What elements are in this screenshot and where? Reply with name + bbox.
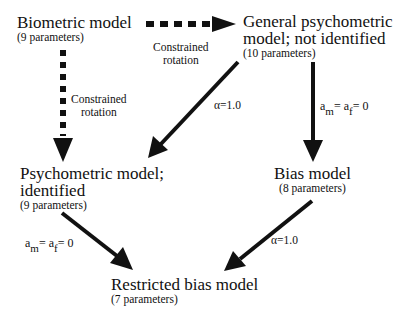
node-params: (10 parameters) [243,47,393,60]
node-general-psychometric-model: General psychometric model; not identifi… [243,13,393,60]
label-line1: Constrained [71,93,127,106]
edge-label-psych-to-restricted: am= af= 0 [25,236,73,254]
node-biometric-model: Biometric model (9 parameters) [17,14,132,44]
node-title-line1: General psychometric [243,13,393,30]
node-params: (9 parameters) [20,199,164,212]
eq-part2: = 0 [58,236,74,250]
arrow-bias-to-restricted [224,201,312,271]
edge-label-bias-to-restricted: α=1.0 [271,234,298,247]
node-title-line2: identified [20,182,164,199]
node-params: (9 parameters) [17,31,132,44]
node-params: (7 parameters) [111,293,258,306]
node-title-line2: model; not identified [243,30,393,47]
edge-label-bio-to-general: Constrained rotation [153,41,209,67]
label-line2: rotation [153,54,209,67]
arrow-bio-to-general [146,16,236,32]
label-line1: Constrained [153,41,209,54]
edge-label-general-to-bias: am= af= 0 [320,99,368,117]
node-bias-model: Bias model (8 parameters) [274,165,351,195]
node-title-line1: Psychometric model; [20,165,164,182]
node-restricted-bias-model: Restricted bias model (7 parameters) [111,276,258,306]
eq-sub-m: m [30,242,39,254]
node-title: Bias model [274,165,351,182]
node-psychometric-model: Psychometric model; identified (9 parame… [20,165,164,212]
eq-part1: = a [39,236,54,250]
eq-sub-m: m [325,105,334,117]
node-title: Biometric model [17,14,132,31]
edge-label-general-to-psych: α=1.0 [214,99,241,112]
eq-part2: = 0 [353,99,369,113]
eq-part1: = a [334,99,349,113]
edge-label-bio-to-psych: Constrained rotation [71,93,127,119]
arrow-bio-to-psych [53,50,73,162]
label-line2: rotation [71,106,127,119]
node-params: (8 parameters) [274,182,351,195]
node-title: Restricted bias model [111,276,258,293]
